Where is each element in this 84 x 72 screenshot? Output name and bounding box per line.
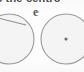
circle-left-group xyxy=(0,14,34,64)
circle-right-center-dot xyxy=(64,37,67,40)
circle-right-group xyxy=(41,14,84,64)
geometry-figures xyxy=(0,0,84,72)
figure-label-e: e xyxy=(33,6,38,18)
heading-clip: s the centro xyxy=(0,0,84,7)
heading-partial-text: s the centro xyxy=(0,0,61,5)
scanned-page-fragment: s the centro e xyxy=(0,0,84,72)
circle-right xyxy=(41,14,84,64)
figures-svg xyxy=(0,0,84,72)
circle-left xyxy=(0,14,34,64)
